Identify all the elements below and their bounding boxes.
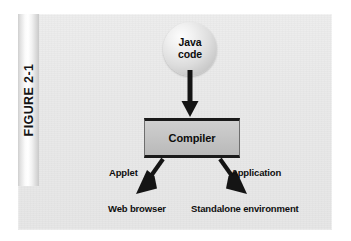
edge-label-application: Application — [231, 167, 281, 178]
compiler-box: Compiler — [144, 118, 240, 158]
figure-page: FIGURE 2-1 Java code Compiler Applet App… — [0, 0, 351, 241]
java-code-node-line-2: code — [178, 49, 202, 61]
target-label-standalone-environment: Standalone environment — [191, 203, 299, 214]
figure-number-label: FIGURE 2-1 — [22, 64, 36, 137]
figure-number-tab: FIGURE 2-1 — [18, 14, 39, 186]
target-label-web-browser: Web browser — [108, 203, 166, 214]
java-code-node: Java code — [163, 22, 217, 76]
edge-label-applet: Applet — [109, 167, 138, 178]
compiler-box-label: Compiler — [169, 132, 216, 144]
